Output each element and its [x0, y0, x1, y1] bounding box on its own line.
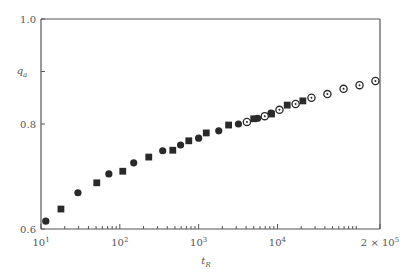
point-filled-circle — [195, 135, 202, 142]
open-circle-dot — [359, 84, 361, 86]
x-tick-label: 102 — [111, 236, 128, 248]
y-tick-label: 0.6 — [20, 224, 36, 235]
x-tick-label-base: 10 — [111, 237, 124, 248]
x-tick-label-base: 10 — [190, 237, 203, 248]
point-filled-square — [268, 111, 275, 118]
point-filled-circle — [177, 141, 184, 148]
open-circle-dot — [246, 121, 248, 123]
point-filled-square — [299, 98, 306, 105]
point-filled-square — [284, 102, 291, 109]
y-tick-label: 1.0 — [20, 14, 36, 25]
point-filled-square — [225, 122, 232, 129]
point-filled-square — [58, 206, 65, 213]
x-tick-label: 103 — [190, 236, 207, 248]
point-open-circle — [243, 118, 250, 125]
x-tick-label-exp: 3 — [203, 236, 207, 244]
axes — [41, 19, 380, 229]
point-filled-circle — [105, 170, 112, 177]
x-tick-label: 104 — [269, 236, 287, 248]
point-filled-circle — [42, 218, 49, 225]
x-tick-label-base: 2 × 10 — [361, 237, 395, 248]
x-ticks: 1011021031042 × 105 — [32, 224, 399, 248]
point-filled-square — [169, 147, 176, 154]
x-tick-label-exp: 4 — [282, 236, 287, 244]
point-open-circle — [292, 100, 299, 107]
point-filled-circle — [159, 147, 166, 154]
x-tick-label-exp: 2 — [124, 236, 128, 244]
point-filled-circle — [74, 189, 81, 196]
open-circle-dot — [278, 109, 280, 111]
point-open-circle — [340, 85, 347, 92]
chart: 1011021031042 × 105 0.60.81.0 tR qa — [0, 0, 407, 275]
x-tick-label-exp: 5 — [395, 236, 399, 244]
x-axis-title-sub: R — [204, 261, 211, 269]
x-tick-label-exp: 1 — [45, 236, 49, 244]
y-tick-label: 0.8 — [20, 119, 36, 130]
point-filled-circle — [130, 159, 137, 166]
point-filled-square — [250, 115, 257, 122]
point-open-circle — [261, 113, 268, 120]
open-circle-dot — [374, 80, 376, 82]
point-filled-circle — [215, 127, 222, 134]
open-circle-dot — [264, 115, 266, 117]
open-circle-dot — [343, 88, 345, 90]
point-open-circle — [308, 94, 315, 101]
x-tick-label: 2 × 105 — [361, 236, 399, 248]
x-tick-label: 101 — [32, 236, 49, 248]
point-filled-square — [185, 137, 192, 144]
point-open-circle — [372, 77, 379, 84]
open-circle-dot — [310, 97, 312, 99]
y-axis-title-sub: a — [23, 71, 27, 79]
point-filled-square — [119, 168, 126, 175]
point-filled-square — [145, 154, 152, 161]
y-axis-title: qa — [17, 65, 28, 79]
point-open-circle — [356, 82, 363, 89]
point-filled-circle — [235, 120, 242, 127]
x-tick-label-base: 10 — [269, 237, 282, 248]
point-filled-square — [203, 130, 210, 137]
x-axis-title: tR — [201, 255, 211, 269]
point-open-circle — [324, 90, 331, 97]
open-circle-dot — [295, 103, 297, 105]
data-points — [42, 77, 379, 224]
point-filled-square — [93, 179, 100, 186]
point-open-circle — [276, 106, 283, 113]
x-tick-label-base: 10 — [32, 237, 45, 248]
open-circle-dot — [326, 93, 328, 95]
